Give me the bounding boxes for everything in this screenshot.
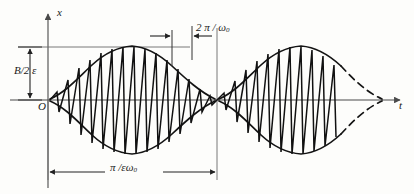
beat-halfperiod-label: π /εω0 xyxy=(110,162,137,174)
beat-halfperiod-subscript: 0 xyxy=(133,166,137,174)
carrier-period-subscript: 0 xyxy=(226,26,230,34)
beat-halfperiod-text: π /εω xyxy=(110,161,133,173)
y-axis-label: x xyxy=(57,7,62,18)
carrier-period-label: 2 π / ω0 xyxy=(196,22,230,34)
envelope-upper-tail-dashed xyxy=(341,66,382,99)
carrier-period-text: 2 π / ω xyxy=(196,21,226,33)
amplitude-dimension-label: B/2 ε xyxy=(14,65,36,76)
x-axis-label: t xyxy=(399,100,402,111)
origin-label: O xyxy=(38,101,46,112)
envelope-lower-tail-dashed xyxy=(341,101,382,134)
figure-container: x t O B/2 ε 2 π / ω0 π /εω0 xyxy=(0,0,414,194)
